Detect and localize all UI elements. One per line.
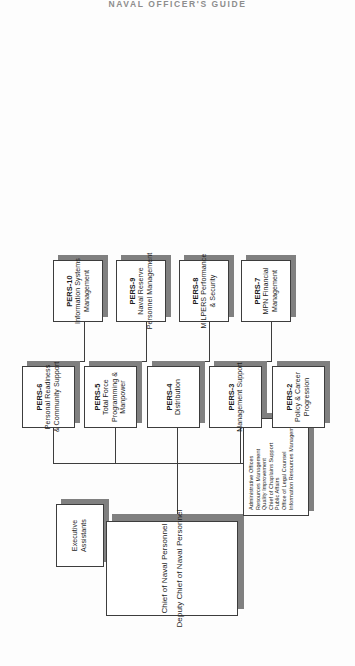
pers-5-line-3: Manpower (119, 380, 128, 414)
node-pers-9[interactable]: PERS-9 Naval Reserve Personnel Managemen… (116, 260, 166, 322)
chief-line-1: Chief of Naval Personnel (157, 524, 172, 614)
node-chief-of-naval-personnel[interactable]: Chief of Naval Personnel Deputy Chief of… (106, 521, 238, 616)
pers-6-line-1: Personal Readiness (44, 365, 53, 430)
connector-spine-pers3 (240, 428, 241, 464)
pers-9-code: PERS-9 (128, 277, 137, 304)
pers-2-line-1: Policy & Career (294, 372, 303, 422)
chief-line-2: Deputy Chief of Naval Personnel (172, 510, 187, 628)
pers-6-line-2: & Community Support (53, 362, 62, 433)
pers-2-code: PERS-2 (285, 383, 294, 410)
node-staff-offices[interactable]: Administrative Offices Resources Managem… (243, 418, 309, 516)
pers-10-code: PERS-10 (65, 275, 74, 306)
pers-4-code: PERS-4 (165, 383, 174, 410)
connector-root-to-spine (177, 464, 178, 516)
node-pers-4[interactable]: PERS-4 Distribution (147, 366, 200, 428)
org-chart: Chief of Naval Personnel Deputy Chief of… (0, 0, 355, 666)
node-pers-8[interactable]: PERS-8 MILPERS Performance & Security (179, 260, 229, 322)
staff-office-2: Resources Management (255, 449, 262, 510)
node-pers-10[interactable]: PERS-10 Information Systems Management (53, 260, 103, 322)
node-executive-assistants[interactable]: Executive Assistants (56, 504, 104, 567)
pers-8-code: PERS-8 (191, 277, 200, 304)
connector-spine-pers5 (115, 428, 116, 464)
exec-assistants-line-1: Executive (71, 520, 80, 551)
staff-office-1: Administrative Offices (248, 456, 255, 510)
pers-7-code: PERS-7 (253, 277, 262, 304)
connector-spine-pers4 (177, 428, 178, 464)
connector-spine-pers6 (53, 428, 54, 464)
connector-pers4-pers8 (209, 322, 210, 362)
node-pers-6[interactable]: PERS-6 Personal Readiness & Community Su… (22, 366, 75, 428)
node-pers-2[interactable]: PERS-2 Policy & Career Progression (272, 366, 325, 428)
pers-3-line-1: Management Support (236, 362, 245, 431)
node-pers-5[interactable]: PERS-5 Total Force Programming & Manpowe… (84, 366, 137, 428)
book-page: NAVAL OFFICER'S GUIDE (0, 0, 355, 666)
connector-pers3-pers7 (271, 322, 272, 362)
pers-5-line-1: Total Force (102, 379, 111, 415)
staff-office-5: Public Affairs (274, 477, 281, 510)
pers-9-line-2: Personnel Management (146, 253, 155, 330)
connector-pers6-pers10 (84, 322, 85, 362)
pers-5-line-2: Programming & (111, 372, 120, 422)
pers-5-code: PERS-5 (93, 383, 102, 410)
exec-assistants-line-2: Assistants (80, 519, 89, 552)
staff-office-7: Information Resources Management (288, 419, 295, 510)
pers-7-line-2: Management (271, 270, 280, 312)
node-pers-7[interactable]: PERS-7 MPN Financial Management (241, 260, 291, 322)
staff-office-4: Chief of Chaplains Support (268, 443, 275, 510)
rotated-chart-container: Chief of Naval Personnel Deputy Chief of… (0, 0, 355, 666)
pers-7-line-1: MPN Financial (262, 268, 271, 315)
pers-3-code: PERS-3 (227, 383, 236, 410)
staff-office-6: Office of Legal Counsel (281, 452, 288, 510)
pers-8-line-2: & Security (209, 275, 218, 308)
staff-office-3: Quality Improvement (261, 458, 268, 510)
pers-6-code: PERS-6 (35, 383, 44, 410)
pers-8-line-1: MILPERS Performance (200, 254, 209, 329)
pers-9-line-1: Naval Reserve (137, 267, 146, 314)
pers-2-line-2: Progression (303, 378, 312, 417)
pers-10-line-1: Information Systems (74, 258, 83, 324)
node-pers-3[interactable]: PERS-3 Management Support (209, 366, 262, 428)
pers-10-line-2: Management (83, 270, 92, 312)
pers-4-line-1: Distribution (174, 379, 183, 415)
